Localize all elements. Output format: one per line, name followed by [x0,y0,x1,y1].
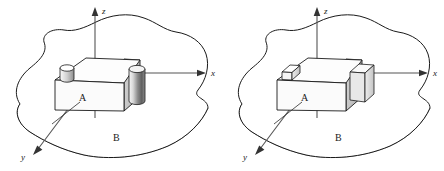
axis-y-label: y [242,152,247,162]
axis-x-label: x [210,68,215,78]
diagram-panel-left: z x y [0,0,222,171]
boss-cylinder-top-left [60,65,74,82]
surface-label-b: B [335,132,342,143]
block-front-face [55,80,124,111]
axis-y-arrowhead [33,145,42,155]
surface-label-b: B [113,132,120,143]
axis-y-label: y [20,152,25,162]
diagram-panel-right: z x y [222,0,444,171]
boss-box-right [350,64,374,102]
figure-root: z x y [0,0,444,171]
axis-z-arrowhead [314,7,321,16]
block-label-a: A [79,92,87,103]
axis-z-label: z [101,6,106,16]
block-label-a: A [301,92,309,103]
axis-x-label: x [432,68,437,78]
block-front-face [277,80,346,111]
axis-y-arrowhead [255,145,264,155]
axis-z-label: z [323,6,328,16]
axis-z-arrowhead [92,7,99,16]
boss-cylinder-right [129,65,145,104]
